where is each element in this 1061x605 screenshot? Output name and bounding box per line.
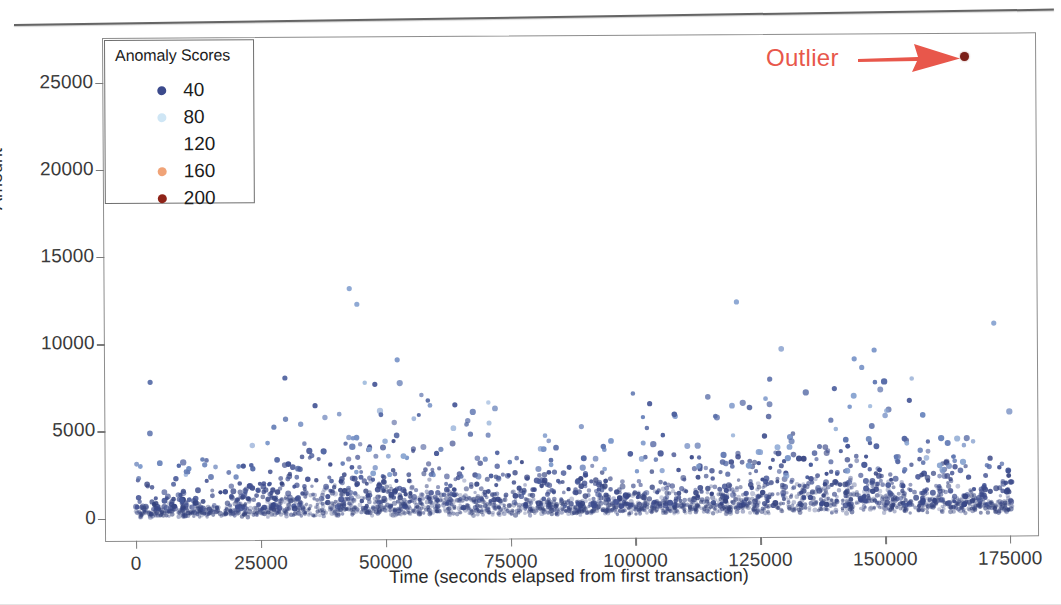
y-tick-mark (96, 257, 104, 258)
scan-artifact-line-top (14, 9, 1054, 26)
legend-entry: 120 (105, 130, 253, 158)
x-axis-title: Time (seconds elapsed from first transac… (102, 564, 1036, 590)
outlier-annotation-label: Outlier (766, 44, 839, 72)
legend-entry-label: 120 (183, 132, 215, 154)
legend-entry: 80 (105, 103, 253, 131)
x-tick-mark (635, 538, 636, 546)
x-tick-mark (261, 540, 262, 548)
x-tick-mark (885, 536, 886, 544)
x-tick-mark (136, 541, 137, 549)
arrow-right-icon (856, 40, 966, 76)
legend-swatch-dot (158, 167, 167, 176)
legend-entry-label: 160 (184, 159, 216, 181)
legend-entry: 40 (105, 76, 253, 104)
y-tick-mark (97, 344, 105, 345)
figure-canvas: 0500010000150002000025000 02500050000750… (0, 0, 1061, 605)
x-tick-mark (511, 539, 512, 547)
legend-entry: 160 (106, 157, 254, 185)
x-tick-mark (386, 539, 387, 547)
legend-entries: 4080120160200 (105, 40, 253, 41)
x-tick-mark (760, 537, 761, 545)
legend-swatch-dot (158, 194, 167, 203)
legend-entry: 200 (106, 184, 254, 212)
legend-swatch-dot (157, 86, 166, 95)
legend-entry-label: 40 (183, 79, 204, 101)
legend-entry-label: 200 (184, 186, 216, 208)
y-axis-title: Amount (0, 148, 7, 210)
y-tick-mark (98, 519, 106, 520)
y-tick-mark (95, 83, 103, 84)
x-tick-mark (1010, 535, 1011, 543)
y-tick-label: 0 (85, 507, 96, 529)
y-tick-label: 10000 (41, 332, 95, 354)
y-tick-label: 5000 (52, 419, 95, 441)
y-tick-label: 20000 (40, 158, 94, 180)
legend-title: Anomaly Scores (115, 46, 230, 65)
y-tick-mark (96, 170, 104, 171)
y-tick-label: 15000 (40, 245, 94, 267)
outlier-data-point (960, 52, 969, 61)
y-tick-mark (97, 431, 105, 432)
y-tick-label: 25000 (39, 71, 93, 93)
legend-box: Anomaly Scores 4080120160200 (104, 39, 255, 204)
legend-swatch-dot (157, 113, 166, 122)
legend-entry-label: 80 (183, 106, 204, 128)
